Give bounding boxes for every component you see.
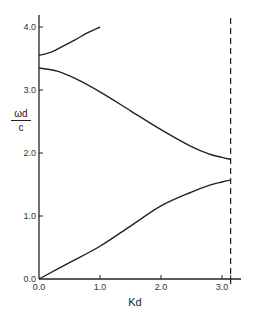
series-lower-band — [39, 180, 231, 279]
x-axis-label: Kd — [128, 296, 141, 308]
x-tick-label: 3.0 — [216, 282, 229, 292]
series-upper-band — [39, 27, 100, 55]
series-middle-band — [39, 68, 231, 159]
ticks: 0.01.02.03.00.01.02.03.04.0 — [23, 22, 230, 292]
y-tick-label: 4.0 — [23, 22, 36, 32]
dispersion-chart: 0.01.02.03.00.01.02.03.04.0 Kd — [0, 0, 255, 319]
y-tick-label: 0.0 — [23, 274, 36, 284]
y-tick-label: 3.0 — [23, 85, 36, 95]
y-tick-label: 2.0 — [23, 148, 36, 158]
axes — [39, 15, 241, 279]
y-axis-label-denominator: c — [11, 121, 31, 133]
y-tick-label: 1.0 — [23, 211, 36, 221]
x-tick-label: 1.0 — [94, 282, 107, 292]
y-axis-label-numerator: ωd — [11, 108, 31, 121]
series-group — [39, 27, 231, 279]
y-axis-label: ωd c — [11, 108, 31, 133]
x-tick-label: 2.0 — [155, 282, 168, 292]
